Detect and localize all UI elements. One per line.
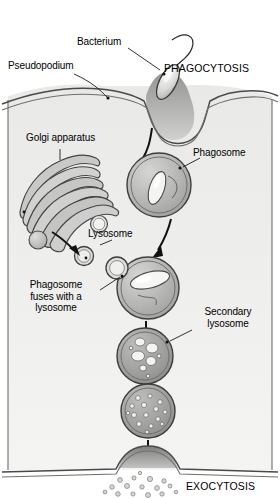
phagocytosis-diagram: Bacterium Pseudopodium PHAGOCYTOSIS Golg…: [0, 0, 280, 499]
residual-body: [121, 384, 175, 438]
label-exocytosis: EXOCYTOSIS: [186, 481, 255, 493]
label-secondary-lysosome: Secondary lysosome: [186, 306, 270, 329]
label-phagosome: Phagosome: [193, 147, 245, 159]
label-golgi-apparatus: Golgi apparatus: [26, 132, 95, 144]
label-fusion: Phagosome fuses with a lysosome: [14, 279, 98, 314]
phagosome: [127, 153, 191, 217]
label-phagocytosis: PHAGOCYTOSIS: [164, 63, 249, 75]
secondary-lysosome: [117, 328, 173, 384]
label-lysosome: Lysosome: [88, 228, 132, 240]
label-pseudopodium: Pseudopodium: [8, 60, 74, 72]
label-bacterium: Bacterium: [77, 36, 121, 48]
expelled-debris: [103, 471, 178, 497]
diagram-canvas: [0, 0, 280, 499]
